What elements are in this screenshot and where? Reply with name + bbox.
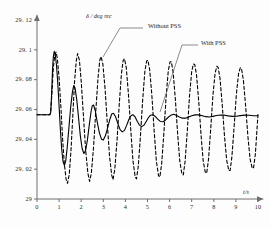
x-axis-title: t/s — [243, 189, 249, 195]
series-line-with-pss — [37, 51, 258, 165]
x-tick-label: 8 — [204, 204, 224, 210]
x-tick-label: 10 — [248, 204, 268, 210]
x-tick-label: 6 — [160, 204, 180, 210]
annotation-leader-line — [103, 28, 143, 57]
chart-figure: 2929. 0229. 0429. 0629. 0829. 129. 12 01… — [0, 0, 270, 228]
y-tick-label: 29. 1 — [19, 47, 32, 53]
y-tick-label: 29. 06 — [15, 106, 32, 112]
y-tick-label: 29. 04 — [15, 136, 32, 142]
axes-group — [34, 14, 264, 202]
y-tick-label: 29. 08 — [15, 76, 32, 82]
x-tick-label: 2 — [71, 204, 91, 210]
y-tick-label: 29. 12 — [15, 17, 32, 23]
x-tick-label: 3 — [93, 204, 113, 210]
x-tick-label: 4 — [115, 204, 135, 210]
y-axis-title: δ / deg rec — [86, 13, 112, 19]
y-tick-label: 29. 02 — [15, 166, 32, 172]
data-series-group — [37, 51, 258, 183]
annotation-leader-lines — [103, 28, 198, 112]
plot-canvas — [0, 0, 270, 228]
y-tick-label: 29 — [25, 196, 32, 202]
x-tick-label: 5 — [138, 204, 158, 210]
x-tick-label: 0 — [27, 204, 47, 210]
x-tick-label: 1 — [49, 204, 69, 210]
annotation-label: With PSS — [201, 40, 226, 46]
annotation-label: Without PSS — [148, 23, 181, 29]
x-tick-label: 9 — [226, 204, 246, 210]
x-tick-label: 7 — [182, 204, 202, 210]
